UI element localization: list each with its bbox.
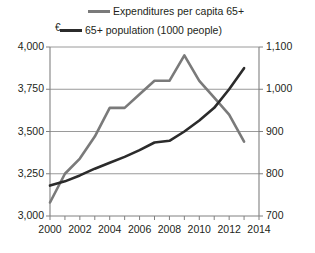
x-axis-tick-label: 2014 — [239, 223, 279, 235]
y-axis-left-tick-label: 4,000 — [2, 40, 44, 52]
legend-swatch-population-icon — [60, 29, 82, 32]
legend-item-population: 65+ population (1000 people) — [60, 25, 222, 36]
legend-item-expenditures: Expenditures per capita 65+ — [88, 6, 244, 17]
y-axis-left-tick-label: 3,000 — [2, 209, 44, 221]
y-axis-left-tick-label: 3,500 — [2, 125, 44, 137]
legend-swatch-expenditures-icon — [88, 10, 110, 13]
y-axis-left-tick-label: 3,250 — [2, 167, 44, 179]
y-axis-right-tick-label: 700 — [266, 209, 308, 221]
chart-legend: Expenditures per capita 65+ 65+ populati… — [0, 4, 315, 42]
legend-label-population: 65+ population (1000 people) — [85, 25, 222, 36]
y-axis-left-unit-label: € — [55, 22, 61, 33]
y-axis-right-tick-label: 900 — [266, 125, 308, 137]
y-axis-right-tick-label: 800 — [266, 167, 308, 179]
series-line-expenditures — [50, 55, 244, 202]
chart-container: Expenditures per capita 65+ 65+ populati… — [0, 0, 315, 253]
legend-label-expenditures: Expenditures per capita 65+ — [113, 6, 244, 17]
series-line-population — [50, 68, 244, 185]
y-axis-right-tick-label: 1,000 — [266, 82, 308, 94]
y-axis-left-tick-label: 3,750 — [2, 82, 44, 94]
y-axis-right-tick-label: 1,100 — [266, 40, 308, 52]
